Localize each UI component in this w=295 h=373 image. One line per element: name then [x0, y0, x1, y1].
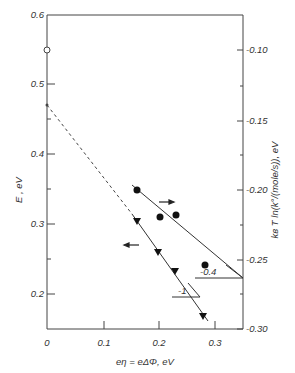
data-point-triangle: [199, 313, 207, 320]
data-point-circle: [173, 212, 180, 219]
x-axis-label: eη = eΔΦ, eV: [116, 356, 176, 367]
x-tick-label: 0.3: [208, 337, 222, 348]
plot-frame: [47, 15, 243, 329]
arrow-left-icon: [124, 243, 139, 247]
y-tick-label: 0.4: [31, 148, 44, 159]
y2-tick-label: -0.25: [246, 254, 268, 265]
x-tick-label: 0.2: [152, 337, 166, 348]
y-tick-label: 0.5: [31, 78, 45, 89]
chart: 0.6 0.5 0.4 0.3 0.2 0 0.1 0.2 0.3 -0.10 …: [0, 0, 295, 373]
y2-tick-label: -0.20: [246, 184, 268, 195]
data-point-circle: [157, 214, 164, 221]
dashed-extrapolation-line: [47, 105, 132, 214]
y2-axis-label: kʙ T ln(k°/(mole/s)), eV: [269, 140, 280, 238]
y-tick-label: 0.6: [31, 9, 45, 20]
y-tick-label: 0.2: [31, 288, 45, 299]
y2-tick-label: -0.15: [246, 115, 268, 126]
bottom-axis-ticks: [104, 321, 215, 329]
slope-label-triangles: -1: [178, 285, 186, 296]
x-tick-label: 0: [44, 337, 50, 348]
y2-tick-label: -0.10: [246, 44, 268, 55]
data-point-circle: [134, 187, 141, 194]
arrow-right-icon: [159, 200, 174, 204]
data-point-triangle: [133, 218, 141, 225]
circles-fit-line: [132, 185, 243, 278]
y2-tick-label: -0.30: [246, 323, 268, 334]
y-axis-label: E , eV: [13, 175, 24, 203]
data-point-triangle: [171, 268, 179, 275]
right-axis-ticks: [237, 50, 243, 329]
left-axis-ticks: [47, 84, 55, 294]
circle-series: [134, 187, 209, 269]
open-circle-point: [44, 47, 50, 53]
slope-label-circles: -0.4: [200, 266, 216, 277]
data-point-circle: [202, 262, 209, 269]
y-tick-label: 0.3: [31, 218, 45, 229]
x-tick-label: 0.1: [97, 337, 110, 348]
triangles-fit-line: [132, 214, 208, 321]
intercept-point: [46, 104, 49, 107]
